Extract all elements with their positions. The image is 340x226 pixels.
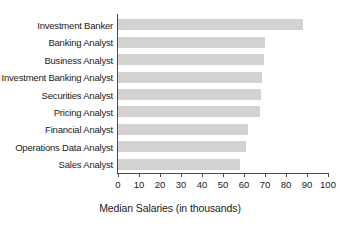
bar bbox=[118, 54, 264, 65]
x-tick bbox=[118, 173, 119, 177]
x-tick bbox=[223, 173, 224, 177]
bar bbox=[118, 106, 260, 117]
category-label: Financial Analyst bbox=[0, 124, 113, 135]
category-label: Business Analyst bbox=[0, 55, 113, 66]
x-tick-label: 100 bbox=[315, 179, 340, 190]
x-tick bbox=[181, 173, 182, 177]
plot-area bbox=[118, 16, 328, 173]
bar bbox=[118, 89, 261, 100]
bar bbox=[118, 19, 303, 30]
bar bbox=[118, 37, 265, 48]
x-tick bbox=[202, 173, 203, 177]
bar bbox=[118, 141, 246, 152]
bar bbox=[118, 159, 240, 170]
x-axis-title: Median Salaries (in thousands) bbox=[0, 202, 340, 214]
category-label: Pricing Analyst bbox=[0, 107, 113, 118]
x-tick bbox=[265, 173, 266, 177]
x-tick bbox=[286, 173, 287, 177]
bar bbox=[118, 124, 248, 135]
category-label: Investment Banker bbox=[0, 20, 113, 31]
bar-chart: Investment BankerBanking AnalystBusiness… bbox=[0, 0, 340, 226]
category-label: Investment Banking Analyst bbox=[0, 72, 113, 83]
x-tick bbox=[307, 173, 308, 177]
bar bbox=[118, 72, 262, 83]
category-label: Operations Data Analyst bbox=[0, 142, 113, 153]
category-label: Sales Analyst bbox=[0, 159, 113, 170]
category-axis-labels: Investment BankerBanking AnalystBusiness… bbox=[0, 16, 113, 173]
x-tick bbox=[244, 173, 245, 177]
x-tick bbox=[139, 173, 140, 177]
x-tick bbox=[160, 173, 161, 177]
category-label: Securities Analyst bbox=[0, 90, 113, 101]
y-axis-line bbox=[117, 14, 118, 174]
x-tick bbox=[328, 173, 329, 177]
category-label: Banking Analyst bbox=[0, 37, 113, 48]
